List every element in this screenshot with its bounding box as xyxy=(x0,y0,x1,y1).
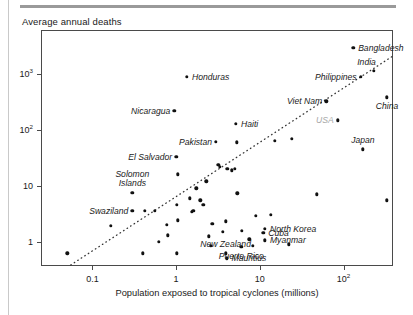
point-label-japan: Japan xyxy=(351,135,374,145)
point-label-china: China xyxy=(376,101,398,111)
point-label-honduras: Honduras xyxy=(192,72,229,82)
plot-area: BangladeshIndiaPhilippinesViet NamUSAChi… xyxy=(42,31,392,265)
x-axis-tick xyxy=(176,265,177,270)
y-axis-tick xyxy=(37,130,42,131)
point-label-haiti: Haiti xyxy=(241,119,258,129)
point-label-bangladesh: Bangladesh xyxy=(358,43,403,53)
y-axis-tick xyxy=(37,74,42,75)
x-axis-tick-label: 0.1 xyxy=(86,274,99,284)
plot-frame: BangladeshIndiaPhilippinesViet NamUSAChi… xyxy=(41,30,393,266)
x-axis-tick-label: 10 xyxy=(255,274,265,284)
x-axis-tick xyxy=(92,265,93,270)
point-label-solomon-islands: SolomonIslands xyxy=(115,169,149,188)
point-label-usa: USA xyxy=(316,115,334,125)
page-title: Average annual deaths xyxy=(22,16,122,27)
point-label-myanmar: Myanmar xyxy=(270,235,306,245)
x-axis-tick-label: 1 xyxy=(174,274,179,284)
point-label-el-salvador: El Salvador xyxy=(128,152,172,162)
point-label-swaziland: Swaziland xyxy=(89,206,128,216)
y-axis-tick-label: 102 xyxy=(20,125,33,135)
point-label-new-zealand: New Zealand xyxy=(200,239,251,249)
y-axis-tick-label: 103 xyxy=(20,69,33,79)
point-label-mauritius: Mauritius xyxy=(232,253,267,263)
point-label-pakistan: Pakistan xyxy=(179,137,212,147)
point-label-philippines: Philippines xyxy=(315,72,357,82)
page-top-rule xyxy=(20,5,396,8)
point-label-india: India xyxy=(357,57,376,67)
point-label-nicaragua: Nicaragua xyxy=(131,106,170,116)
y-axis-tick-label: 10 xyxy=(23,181,33,191)
x-axis-tick-label: 102 xyxy=(337,274,350,284)
x-axis-tick xyxy=(260,265,261,270)
x-axis-title: Population exposed to tropical cyclones … xyxy=(115,288,318,298)
page-left-border xyxy=(8,0,9,315)
y-axis-tick-label: 1 xyxy=(28,237,33,247)
y-axis-tick xyxy=(37,186,42,187)
trend-line xyxy=(42,31,394,267)
x-axis-tick xyxy=(344,265,345,270)
y-axis-tick xyxy=(37,242,42,243)
point-label-viet-nam: Viet Nam xyxy=(287,96,322,106)
